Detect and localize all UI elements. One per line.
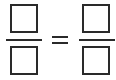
left-numerator-box[interactable] (10, 4, 38, 33)
right-fraction-bar (79, 39, 115, 41)
left-fraction-bar (6, 39, 42, 41)
left-denominator-box[interactable] (10, 46, 38, 75)
right-denominator-box[interactable] (82, 46, 110, 75)
equals-top-bar (52, 36, 68, 38)
equals-bottom-bar (52, 42, 68, 44)
right-numerator-box[interactable] (82, 4, 110, 33)
